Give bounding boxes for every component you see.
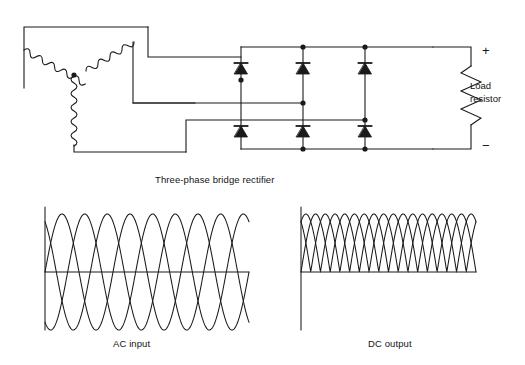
node-phase-c [362, 117, 367, 122]
node-bottom-2 [300, 146, 305, 151]
phase-c-feed-wire [186, 120, 365, 152]
diode-d1 [235, 63, 248, 74]
node-bottom-3 [362, 146, 367, 151]
dc-output-waveform-plot [301, 207, 476, 330]
caption-dc-output: DC output [368, 338, 412, 349]
winding-phase-a [23, 27, 148, 88]
positive-terminal-sign: + [482, 44, 490, 57]
phase-b-feed-wire-dummy [195, 60, 303, 103]
load-resistor-label: Load resistor [470, 80, 501, 105]
load-resistor-label-line1: Load [470, 80, 501, 93]
negative-terminal-sign: − [482, 139, 490, 152]
diode-d4 [235, 126, 248, 137]
load-resistor-label-line2: resistor [470, 93, 501, 106]
diode-d5 [297, 126, 310, 137]
caption-bridge-rectifier: Three-phase bridge rectifier [155, 174, 275, 185]
node-phase-a [238, 77, 243, 82]
diode-d6 [359, 126, 372, 137]
node-phase-b [300, 100, 305, 105]
phase-a-feed-wire [148, 27, 241, 57]
diode-d2 [297, 63, 310, 74]
neutral-star-point [71, 72, 76, 77]
winding-phase-b [84, 40, 195, 103]
ac-input-waveform-plot [45, 207, 249, 330]
winding-phase-c [71, 76, 186, 152]
caption-ac-input: AC input [113, 338, 150, 349]
diode-d3 [359, 63, 372, 74]
schematic-circuit [23, 27, 481, 152]
dc-waveform-phase-c [301, 214, 476, 271]
node-top-2 [300, 44, 305, 49]
node-top-3 [362, 44, 367, 49]
